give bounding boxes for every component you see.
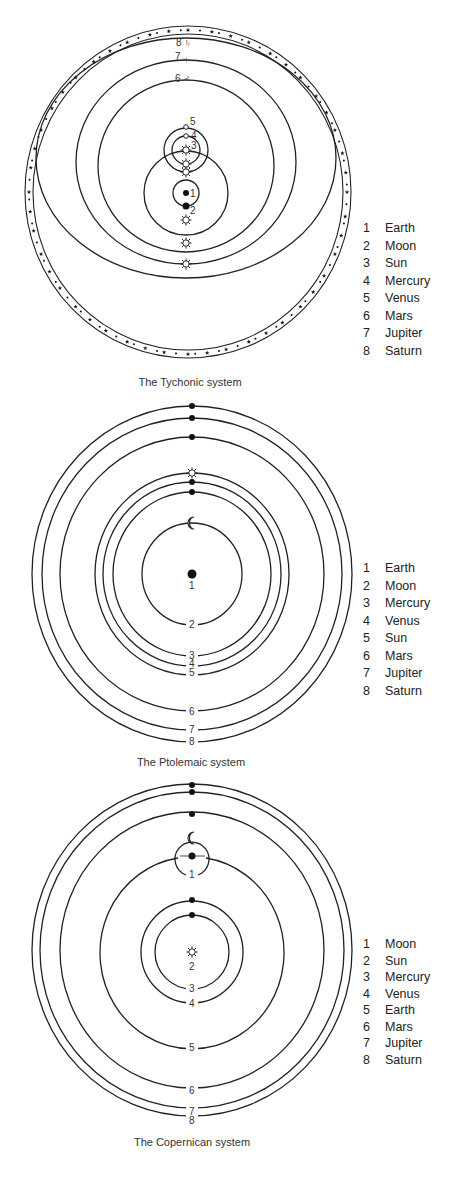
saturn-label: 8 [189,1115,195,1126]
jupiter-icon: ♃ [181,54,189,65]
mars-label: 6 [189,706,195,717]
sun-icon [181,145,192,156]
legend-item: 1Moon [363,936,430,953]
legend-item: 4Venus [363,986,430,1003]
moon-icon [183,203,190,210]
ptolemaic-caption: The Ptolemaic system [91,756,291,768]
mercury-label: 3 [189,983,195,994]
saturn-icon [189,403,195,409]
sun-label: 2 [189,961,195,972]
copernican-diagram: 1 2 3 4 5 6 7 8 [32,782,352,1126]
legend-item: 6Mars [363,648,430,666]
mars-label: 6 [175,73,181,84]
copernican-legend: 1Moon 2Sun 3Mercury 4Venus 5Earth 6Mars … [363,936,430,1068]
jupiter-icon [189,415,195,421]
legend-item: 7Jupiter [363,665,430,683]
sun-position-icon [181,259,192,270]
saturn-icon: ♄ [184,37,192,48]
legend-item: 1Earth [363,220,430,238]
legend-item: 2Moon [363,238,430,256]
mars-icon [189,434,195,440]
sun-position-icon [181,238,192,249]
moon-label: 2 [189,619,195,630]
earth-icon [188,570,197,579]
legend-item: 4Mercury [363,273,430,291]
tychonic-legend: 1Earth 2Moon 3Sun 4Mercury 5Venus 6Mars … [363,220,430,360]
legend-item: 5Earth [363,1002,430,1019]
legend-item: 2Moon [363,578,430,596]
sun-label: 3 [191,140,197,151]
earth-label: 1 [190,188,196,199]
venus-icon [189,897,195,903]
earth-icon [183,190,189,196]
jupiter-label: 7 [189,724,195,735]
legend-item: 8Saturn [363,343,430,361]
sun-label: 5 [189,667,195,678]
legend-item: 6Mars [363,308,430,326]
tychonic-diagram: 1 2 3 4 5 6 ♂ 7 ♃ 8 ♄ [25,26,351,358]
legend-item: 3Mercury [363,595,430,613]
legend-item: 2Sun [363,953,430,970]
legend-item: 1Earth [363,560,430,578]
legend-item: 7Jupiter [363,325,430,343]
legend-item: 5Venus [363,290,430,308]
venus-icon [181,167,192,178]
legend-item: 6Mars [363,1019,430,1036]
sun-position-icon [181,215,192,226]
mars-icon: ♂ [183,73,191,84]
earth-label: 1 [189,580,195,591]
moon-label: 2 [190,205,196,216]
sun-icon [187,468,198,479]
mars-icon [189,811,195,817]
legend-item: 5Sun [363,630,430,648]
tychonic-caption: The Tychonic system [90,376,290,388]
sun-icon [187,947,198,958]
mercury-label: 4 [191,130,197,141]
legend-item: 3Mercury [363,969,430,986]
venus-icon [184,125,189,130]
saturn-icon [189,782,195,788]
legend-item: 3Sun [363,255,430,273]
mercury-icon [184,134,189,139]
venus-label: 5 [190,116,196,127]
saturn-label: 8 [189,736,195,747]
mars-label: 6 [189,1085,195,1096]
legend-item: 8Saturn [363,1052,430,1069]
moon-label: 1 [189,869,195,880]
legend-item: 8Saturn [363,683,430,701]
earth-label: 5 [189,1042,195,1053]
copernican-caption: The Copernican system [92,1136,292,1148]
legend-item: 4Venus [363,613,430,631]
legend-item: 7Jupiter [363,1035,430,1052]
jupiter-icon [189,789,195,795]
mercury-icon [189,912,195,918]
venus-icon [189,479,195,485]
saturn-label: 8 [176,37,182,48]
venus-label: 4 [189,998,195,1009]
ptolemaic-legend: 1Earth 2Moon 3Mercury 4Venus 5Sun 6Mars … [363,560,430,700]
ptolemaic-diagram: 1 2 3 4 5 6 7 8 [32,403,352,747]
mercury-icon [189,489,195,495]
